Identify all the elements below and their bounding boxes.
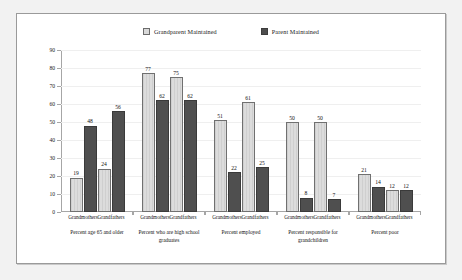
legend-item-grandparent-maintained: Grandparent Maintained xyxy=(143,28,217,35)
bar-light: 50 xyxy=(286,50,299,212)
bar-value-label: 19 xyxy=(73,170,79,176)
y-axis-tick-label: 0 xyxy=(52,209,55,215)
bar-fill xyxy=(142,73,155,212)
bar-fill xyxy=(314,122,327,212)
bar-light: 12 xyxy=(386,50,399,212)
bar-light: 21 xyxy=(358,50,371,212)
chart-legend: Grandparent Maintained Parent Maintained xyxy=(17,28,445,35)
bar-value-label: 62 xyxy=(159,93,165,99)
bar-light: 51 xyxy=(214,50,227,212)
plot-area: 0102030405060708090 19482456776275625122… xyxy=(61,50,421,212)
chart-frame: Grandparent Maintained Parent Maintained… xyxy=(16,13,446,264)
bar-dark: 25 xyxy=(256,50,269,212)
bar-value-label: 50 xyxy=(317,115,323,121)
bar-value-label: 21 xyxy=(361,167,367,173)
y-axis-tick-label: 50 xyxy=(49,119,55,125)
bar-value-label: 25 xyxy=(259,160,265,166)
bar-fill xyxy=(300,198,313,212)
bar-fill xyxy=(286,122,299,212)
y-axis-tick xyxy=(57,212,61,213)
subcategory-label-text: Grandfathers xyxy=(313,214,340,220)
bar-fill xyxy=(170,77,183,212)
legend-item-parent-maintained: Parent Maintained xyxy=(261,28,319,35)
y-axis-tick-label: 30 xyxy=(49,155,55,161)
bar-dark: 62 xyxy=(156,50,169,212)
bar-value-label: 61 xyxy=(245,95,251,101)
bar-fill xyxy=(112,111,125,212)
bar-dark: 56 xyxy=(112,50,125,212)
bar-value-label: 8 xyxy=(305,190,308,196)
y-axis-tick-label: 90 xyxy=(49,47,55,53)
subcategory-label-text: Grandfathers xyxy=(97,214,124,220)
bar-value-label: 12 xyxy=(403,183,409,189)
subcategory-label-text: Grandmothers xyxy=(212,214,242,220)
bar-fill xyxy=(358,174,371,212)
bar-fill xyxy=(84,126,97,212)
bar-fill xyxy=(228,172,241,212)
bar-fill xyxy=(70,178,83,212)
y-axis-tick-label: 40 xyxy=(49,137,55,143)
bar-group: 51226125 xyxy=(205,50,277,212)
bar-value-label: 56 xyxy=(115,104,121,110)
subcategory-label-text: Grandmothers xyxy=(284,214,314,220)
bar-light: 50 xyxy=(314,50,327,212)
legend-label: Grandparent Maintained xyxy=(154,28,217,35)
bar-value-label: 51 xyxy=(217,113,223,119)
subcategory-label-text: Grandmothers xyxy=(140,214,170,220)
bar-fill xyxy=(242,102,255,212)
bar-fill xyxy=(400,190,413,212)
bar-fill xyxy=(214,120,227,212)
bar-value-label: 75 xyxy=(173,70,179,76)
bar-value-label: 50 xyxy=(289,115,295,121)
bar-value-label: 7 xyxy=(333,192,336,198)
x-axis-tick xyxy=(277,212,278,215)
bar-fill xyxy=(156,100,169,212)
x-axis-tick xyxy=(133,212,134,215)
bar-light: 24 xyxy=(98,50,111,212)
bar-light: 19 xyxy=(70,50,83,212)
bar-dark: 12 xyxy=(400,50,413,212)
bar-light: 77 xyxy=(142,50,155,212)
bar-fill xyxy=(98,169,111,212)
y-axis-tick-label: 80 xyxy=(49,65,55,71)
category-label: Percent age 65 and older xyxy=(61,229,133,244)
bar-value-label: 24 xyxy=(101,161,107,167)
bar-value-label: 12 xyxy=(389,183,395,189)
bar-dark: 14 xyxy=(372,50,385,212)
bar-fill xyxy=(386,190,399,212)
x-axis-tick xyxy=(420,212,421,215)
bar-series-container: 19482456776275625122612550850721141212 xyxy=(61,50,421,212)
bar-dark: 48 xyxy=(84,50,97,212)
bar-dark: 8 xyxy=(300,50,313,212)
bar-fill xyxy=(372,187,385,212)
bar-value-label: 77 xyxy=(145,66,151,72)
subcategory-label-text: Grandfathers xyxy=(241,214,268,220)
y-axis-tick-label: 20 xyxy=(49,173,55,179)
dark-square-marker-icon xyxy=(261,28,268,35)
subcategory-label-text: Grandmothers xyxy=(356,214,386,220)
subcategory-label-text: Grandfathers xyxy=(385,214,412,220)
legend-label: Parent Maintained xyxy=(272,28,319,35)
bar-fill xyxy=(328,199,341,212)
bar-dark: 22 xyxy=(228,50,241,212)
x-axis-tick xyxy=(205,212,206,215)
y-axis-tick-label: 10 xyxy=(49,191,55,197)
bar-value-label: 48 xyxy=(87,118,93,124)
bar-dark: 7 xyxy=(328,50,341,212)
bar-fill xyxy=(256,167,269,212)
category-label: Percent employed xyxy=(205,229,277,244)
x-axis-tick xyxy=(349,212,350,215)
bar-value-label: 62 xyxy=(187,93,193,99)
bar-dark: 62 xyxy=(184,50,197,212)
subcategory-label-text: Grandfathers xyxy=(169,214,196,220)
bar-group: 19482456 xyxy=(61,50,133,212)
bar-value-label: 14 xyxy=(375,179,381,185)
bar-group: 21141212 xyxy=(349,50,421,212)
y-axis-tick-label: 60 xyxy=(49,101,55,107)
category-label: Percent poor xyxy=(349,229,421,244)
category-label: Percent who are high school graduates xyxy=(133,229,205,244)
subcategory-label-text: Grandmothers xyxy=(68,214,98,220)
bar-value-label: 22 xyxy=(231,165,237,171)
bar-group: 77627562 xyxy=(133,50,205,212)
category-axis-labels: Percent age 65 and olderPercent who are … xyxy=(61,229,421,244)
